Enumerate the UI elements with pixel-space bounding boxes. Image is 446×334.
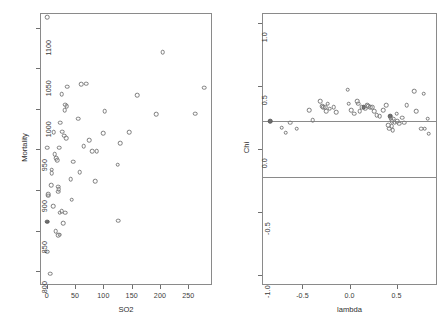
y-tick (36, 149, 40, 150)
y-tick-label: 850 (41, 241, 49, 253)
data-point (334, 110, 339, 115)
data-point (81, 144, 86, 149)
data-point (71, 159, 76, 164)
data-point (84, 81, 89, 86)
x-tick (397, 285, 398, 289)
y-tick-label: -0.5 (264, 222, 272, 235)
data-point (58, 120, 63, 125)
data-point (307, 108, 312, 113)
data-point (45, 15, 50, 20)
data-point (63, 108, 68, 113)
y-tick (36, 109, 40, 110)
plot-area-left (40, 13, 212, 285)
data-point (422, 127, 427, 132)
data-point (45, 219, 50, 224)
x-tick-label: -0.5 (296, 292, 309, 300)
data-point (326, 101, 331, 106)
y-tick-label: 1050 (45, 80, 53, 96)
data-point (390, 128, 395, 133)
data-point (64, 136, 69, 141)
data-point (46, 193, 51, 198)
x-tick-label: 150 (126, 292, 138, 300)
data-point (102, 109, 107, 114)
data-point (94, 149, 99, 154)
y-tick-label: 1100 (45, 39, 53, 55)
y-tick (36, 271, 40, 272)
y-tick-label: 0.0 (261, 158, 269, 168)
reference-line-1 (262, 177, 437, 178)
data-point (61, 221, 66, 226)
y-tick (258, 212, 262, 213)
data-point (48, 271, 53, 276)
data-point (55, 158, 60, 163)
x-tick (75, 285, 76, 289)
data-point (49, 183, 54, 188)
data-point (425, 116, 430, 121)
y-tick (36, 190, 40, 191)
data-point (381, 108, 386, 113)
data-point (402, 120, 407, 125)
x-tick (160, 285, 161, 289)
data-point (405, 103, 410, 108)
data-point (400, 115, 405, 120)
data-point (268, 119, 273, 124)
scatter-panel-chi-lambda: -0.50.00.5-1.0-0.50.00.51.0 lambda Chi (223, 0, 446, 334)
y-tick-label: -1.0 (264, 285, 272, 298)
x-tick (302, 285, 303, 289)
data-point (65, 85, 70, 90)
y-tick (258, 23, 262, 24)
data-point (288, 120, 293, 125)
data-point (90, 149, 95, 154)
x-axis-title-right: lambda (337, 305, 362, 314)
data-point (345, 88, 350, 93)
data-point (135, 93, 140, 98)
data-point (57, 145, 62, 150)
data-point (101, 131, 106, 136)
data-point (318, 99, 323, 104)
data-point (346, 101, 351, 106)
y-tick-label: 800 (41, 281, 49, 293)
x-tick (350, 285, 351, 289)
data-point (283, 130, 288, 135)
y-tick (36, 68, 40, 69)
data-point (422, 91, 427, 96)
data-point (154, 112, 159, 117)
y-tick (258, 275, 262, 276)
x-tick-label: 0.5 (391, 292, 401, 300)
y-tick (36, 28, 40, 29)
data-point (160, 50, 165, 55)
scatter-panel-mortality-so2: 050100150200250800850900950100010501100 … (0, 0, 223, 334)
data-point (352, 111, 357, 116)
data-point (56, 189, 61, 194)
data-point (77, 170, 82, 175)
data-point (58, 210, 63, 215)
x-tick-label: 200 (154, 292, 166, 300)
data-point (279, 125, 284, 130)
y-axis-title-left: Mortality (20, 128, 29, 168)
y-tick-label: 950 (41, 159, 49, 171)
x-tick-label: 0.0 (344, 292, 354, 300)
data-point (202, 85, 207, 90)
data-point (63, 210, 68, 215)
data-point (414, 109, 419, 114)
data-point (79, 82, 84, 87)
y-tick-label: 0.5 (261, 95, 269, 105)
data-point (59, 92, 64, 97)
data-point (87, 138, 92, 143)
y-tick (258, 149, 262, 150)
data-point (426, 132, 431, 137)
x-tick-label: 50 (71, 292, 79, 300)
x-tick (132, 285, 133, 289)
data-point (69, 197, 74, 202)
data-point (68, 177, 73, 182)
data-point (56, 233, 61, 238)
y-tick-label: 1000 (45, 121, 53, 137)
x-tick-label: 250 (182, 292, 194, 300)
data-point (50, 171, 55, 176)
data-point (127, 130, 132, 135)
x-tick (103, 285, 104, 289)
data-point (115, 163, 120, 168)
data-point (76, 116, 81, 121)
data-point (93, 179, 98, 184)
x-tick (188, 285, 189, 289)
